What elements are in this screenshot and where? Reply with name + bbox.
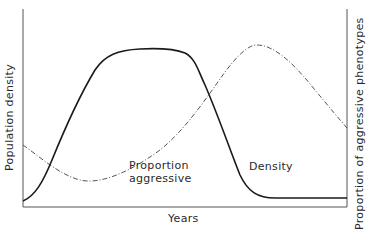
y-axis-left-label: Population density xyxy=(3,64,16,171)
chart-plot xyxy=(0,0,372,236)
annotation-proportion-line2: aggressive xyxy=(129,172,192,185)
annotation-density: Density xyxy=(249,160,293,173)
x-axis-label: Years xyxy=(168,212,199,225)
annotation-proportion-line1: Proportion xyxy=(129,159,189,172)
chart-container: Population density Proportion of aggress… xyxy=(0,0,372,236)
y-axis-right-label: Proportion of aggressive phenotypes xyxy=(353,17,366,230)
